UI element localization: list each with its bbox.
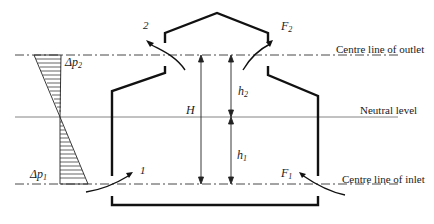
opening-1-label: 1 [140,165,146,176]
delta-p1-sub: 1 [43,173,47,182]
outlet-line-label: Centre line of outlet [336,44,424,55]
delta-p1-base: Δp [30,167,43,181]
F2-label: F2 [281,20,292,34]
outlet-flow-right-arrow [243,44,270,70]
dimension-arrows [199,55,234,184]
h2-sub: 2 [244,90,248,99]
h1-sub: 1 [243,154,247,163]
delta-p2-label: Δp2 [65,56,82,70]
floor [112,196,318,205]
inlet-line-label: Centre line of inlet [342,174,425,185]
pressure-distribution [34,55,88,184]
F2-sub: 2 [288,25,292,34]
inlet-flow-left-arrow [86,175,130,192]
delta-p2-sub: 2 [78,61,82,70]
h1-label: h1 [237,149,247,163]
delta-p1-label: Δp1 [30,168,47,182]
roof [165,13,268,43]
F1-sub: 1 [288,172,292,181]
height-H-label: H [186,104,195,116]
h2-label: h2 [238,85,248,99]
F1-label: F1 [281,167,292,181]
neutral-level-label: Neutral level [360,105,417,116]
inlet-flow-right-arrow [302,175,345,195]
right-wall-upper [268,66,318,176]
outlet-flow-left-arrow [150,44,185,70]
delta-p2-base: Δp [65,55,78,69]
opening-2-label: 2 [143,20,149,31]
flow-arrows [86,40,345,195]
left-wall-upper [112,66,165,176]
